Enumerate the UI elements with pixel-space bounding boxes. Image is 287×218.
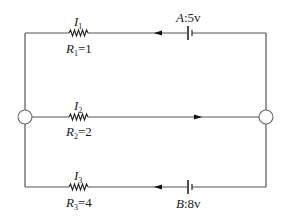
right-node	[259, 110, 273, 124]
arrow-right-icon-middle	[194, 115, 202, 120]
resistor-label-r1: R1=1	[65, 41, 92, 58]
current-label-i3: I3	[73, 168, 82, 185]
arrow-left-icon-bottom	[154, 185, 162, 190]
battery-a-icon	[188, 26, 192, 40]
battery-b-icon	[188, 180, 192, 194]
source-label-a: A:5v	[175, 10, 201, 25]
resistor-label-r3: R3=4	[65, 195, 92, 212]
resistor-label-r2: R2=2	[65, 124, 92, 141]
current-label-i1: I1	[73, 14, 82, 31]
wires	[25, 33, 266, 187]
arrow-left-icon-top	[154, 31, 162, 36]
source-label-b: B:8v	[176, 196, 201, 211]
left-node	[18, 110, 32, 124]
circuit-diagram: I1 R1=1 A:5v I2 R2=2 I3 R3=4 B:8v	[0, 0, 287, 218]
current-label-i2: I2	[73, 98, 82, 115]
